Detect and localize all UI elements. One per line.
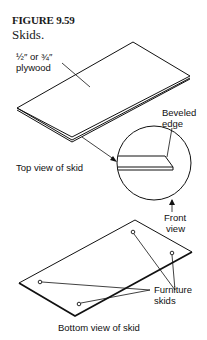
top-view-label: Top view of skid	[16, 162, 83, 173]
detail-arrow	[82, 137, 115, 160]
front-view-detail-circle	[117, 126, 191, 200]
front-view-label-line2: view	[166, 223, 185, 234]
front-view-label-line1: Front	[164, 212, 186, 223]
plywood-label-line1: ½″ or ¾″	[16, 51, 52, 62]
furniture-label-line2: skids	[154, 295, 176, 306]
beveled-label-line2: edge	[162, 118, 183, 129]
furniture-label-line1: Furniture	[154, 284, 192, 295]
beveled-label-line1: Beveled	[162, 107, 196, 118]
plywood-label-line2: plywood	[16, 62, 51, 73]
bottom-view-label: Bottom view of skid	[58, 322, 140, 333]
